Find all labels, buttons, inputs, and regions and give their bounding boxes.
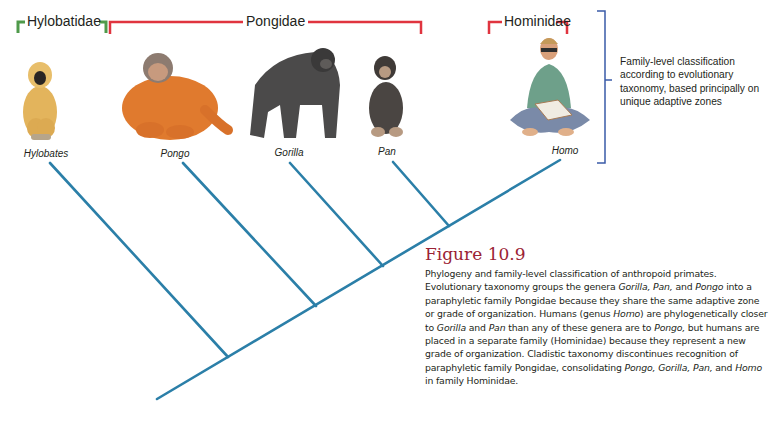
caption-italic-term: Gorilla, Pan, — [618, 281, 672, 292]
branch-hylobates — [50, 163, 228, 357]
human-reading-illustration — [510, 38, 590, 136]
figure-title: Figure 10.9 — [425, 244, 770, 264]
classification-note: Family-level classification according to… — [620, 55, 770, 109]
gibbon-illustration — [23, 62, 57, 140]
caption-italic-term: Homo — [735, 362, 762, 373]
branch-pongo — [183, 163, 316, 306]
caption-italic-term: Pongo, Gorilla, Pan, — [625, 362, 713, 373]
chimpanzee-illustration — [369, 56, 403, 137]
caption-text: and — [673, 281, 696, 292]
caption-text: and — [713, 362, 736, 373]
genus-label-homo: Homo — [552, 145, 579, 156]
genus-label-pan: Pan — [378, 146, 396, 157]
branch-gorilla — [290, 163, 383, 266]
phylogeny-figure: Hylobatidae Pongidae Hominidae — [0, 0, 772, 430]
figure-caption: Figure 10.9 Phylogeny and family-level c… — [425, 244, 770, 388]
genus-label-hylobates: Hylobates — [24, 148, 68, 159]
caption-italic-term: Pongo — [695, 281, 723, 292]
caption-italic-term: Gorilla — [437, 322, 466, 333]
genus-label-pongo: Pongo — [161, 148, 190, 159]
genus-label-gorilla: Gorilla — [275, 147, 304, 158]
branch-pan — [393, 162, 449, 226]
caption-italic-term: Homo — [613, 308, 640, 319]
caption-text: than any of these genera are to — [505, 322, 654, 333]
caption-italic-term: Pongo, — [654, 322, 685, 333]
figure-caption-body: Phylogeny and family-level classificatio… — [425, 267, 770, 388]
gorilla-illustration — [250, 48, 340, 138]
orangutan-illustration — [122, 53, 228, 140]
caption-text: in family Hominidae. — [425, 375, 518, 386]
caption-text: and — [466, 322, 489, 333]
caption-italic-term: Pan — [489, 322, 506, 333]
